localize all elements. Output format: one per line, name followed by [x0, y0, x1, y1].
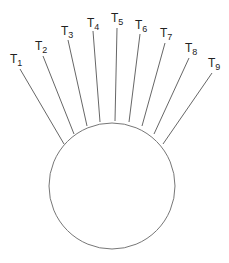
line-t4	[93, 31, 100, 122]
line-t8	[154, 58, 189, 134]
line-group	[20, 28, 212, 144]
line-t1	[20, 69, 64, 144]
line-t5	[115, 28, 117, 121]
label-t9: T9	[208, 56, 220, 72]
label-t3: T3	[61, 24, 73, 40]
circle	[49, 123, 175, 249]
line-t6	[129, 34, 140, 122]
label-group: T1T2T3T4T5T6T7T8T9	[10, 11, 220, 72]
line-t7	[142, 43, 165, 126]
label-t4: T4	[87, 16, 99, 32]
tangent-lines-diagram: T1T2T3T4T5T6T7T8T9	[0, 0, 229, 263]
label-t7: T7	[160, 26, 172, 42]
label-t1: T1	[10, 52, 22, 68]
label-t2: T2	[35, 39, 47, 55]
line-t9	[163, 73, 212, 144]
line-t3	[68, 40, 87, 126]
label-t6: T6	[135, 18, 147, 34]
label-t8: T8	[185, 41, 197, 57]
label-t5: T5	[111, 11, 123, 27]
line-t2	[43, 56, 74, 134]
